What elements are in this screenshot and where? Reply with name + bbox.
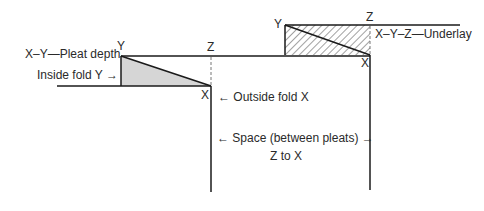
- outside-fold-text: Outside fold X: [233, 90, 308, 104]
- inside-fold-label: Inside fold Y →: [37, 68, 118, 82]
- pleat-depth-label: X–Y—Pleat depth: [25, 47, 120, 61]
- left-x-label: X: [201, 88, 209, 102]
- right-x-label: X: [361, 56, 369, 70]
- right-y-label: Y: [274, 17, 282, 31]
- arrow-left-icon: ←: [217, 131, 229, 145]
- inside-fold-text: Inside fold Y: [37, 68, 103, 82]
- outside-fold-label: ← Outside fold X: [218, 90, 309, 104]
- space-sub-label: Z to X: [270, 149, 302, 163]
- space-label: ← Space (between pleats) →: [217, 131, 374, 145]
- arrow-right-icon: →: [106, 68, 118, 82]
- arrow-left-icon: ←: [218, 90, 230, 104]
- arrow-right-icon: →: [362, 131, 374, 145]
- space-text: Space (between pleats): [232, 131, 358, 145]
- left-z-label: Z: [207, 40, 214, 54]
- right-z-label: Z: [366, 10, 373, 24]
- underlay-label: X–Y–Z—Underlay: [375, 27, 472, 41]
